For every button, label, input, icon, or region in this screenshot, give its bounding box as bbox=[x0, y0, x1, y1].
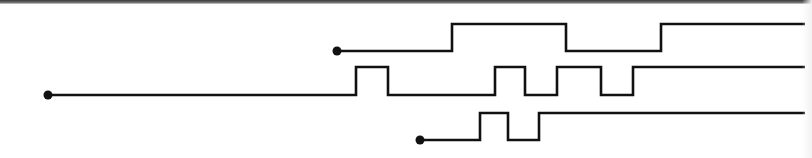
signal-1-trace bbox=[333, 24, 806, 56]
timing-diagram bbox=[0, 0, 812, 158]
signal-1-waveform bbox=[337, 24, 805, 51]
signal-2-waveform bbox=[48, 67, 805, 95]
signal-1-start-dot-icon bbox=[333, 47, 342, 56]
signal-2-start-dot-icon bbox=[44, 91, 53, 100]
signal-traces bbox=[44, 24, 806, 145]
signal-3-start-dot-icon bbox=[416, 136, 425, 145]
signal-2-trace bbox=[44, 67, 806, 100]
right-edge-fade bbox=[802, 0, 812, 158]
signal-3-waveform bbox=[420, 113, 805, 140]
signal-3-trace bbox=[416, 113, 806, 145]
